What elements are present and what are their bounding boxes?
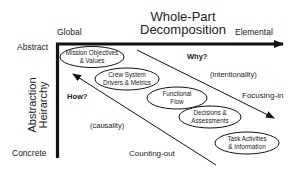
x-axis-left-label: Global <box>57 27 82 37</box>
abstraction-decomposition-diagram: Whole-Part Decomposition Global Elementa… <box>0 0 301 169</box>
causality-label: (causality) <box>90 121 125 130</box>
svg-text:Decisions &: Decisions & <box>193 109 227 116</box>
why-label: Why? <box>187 52 208 61</box>
ellipse-functional-flow: Functional Flow <box>147 87 207 109</box>
ellipse-task-activities: Task Activities & Information <box>215 132 279 154</box>
how-label: How? <box>67 92 88 101</box>
y-axis-top-label: Abstract <box>17 42 49 52</box>
ellipse-decisions: Decisions & Assessments <box>179 106 241 128</box>
y-axis-bottom-label: Concrete <box>12 148 47 158</box>
svg-text:Drivers & Metrics: Drivers & Metrics <box>103 79 151 86</box>
ellipse-mission-objectives: Mission Objectives & Values <box>60 47 124 68</box>
diagram-svg: Whole-Part Decomposition Global Elementa… <box>0 0 301 169</box>
svg-text:Task Activities: Task Activities <box>227 135 266 142</box>
x-axis-right-label: Elemental <box>235 27 273 37</box>
counting-out-label: Counting-out <box>129 149 176 158</box>
svg-text:Crew System: Crew System <box>108 71 145 79</box>
svg-text:Mission Objectives: Mission Objectives <box>66 49 119 57</box>
y-axis-title-line-2: Heirarchy <box>37 81 49 129</box>
focusing-in-label: Focusing-in <box>242 91 283 100</box>
svg-text:Assessments: Assessments <box>191 117 228 124</box>
svg-text:Flow: Flow <box>170 98 184 105</box>
svg-text:& Values: & Values <box>80 57 105 64</box>
ellipse-crew-system: Crew System Drivers & Metrics <box>95 68 159 90</box>
title-line-2: Decomposition <box>140 22 226 37</box>
svg-text:Functional: Functional <box>162 90 191 97</box>
svg-text:& Information: & Information <box>228 143 266 150</box>
intentionality-label: (intentionality) <box>210 70 257 79</box>
y-axis-title: Abstraction Heirarchy <box>26 77 49 132</box>
